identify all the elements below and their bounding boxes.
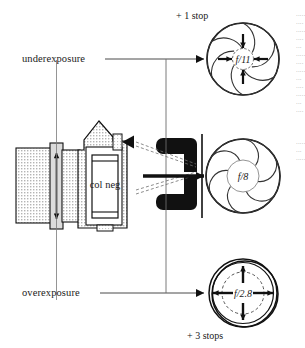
edge-text-line: ····· — [296, 53, 305, 59]
edge-text-line: ······ — [296, 157, 305, 163]
edge-text-line: ····· — [296, 93, 305, 99]
underexposure-label: underexposure — [22, 53, 85, 64]
aperture-f2-8-label: f/2.8 — [234, 288, 252, 299]
edge-text-line: ···· — [296, 61, 304, 67]
lens-nub-body — [113, 134, 122, 150]
plus-three-stops-label: + 3 stops — [187, 330, 223, 341]
diagram-canvas: col neg — [0, 0, 305, 348]
enlarger-exposure-diagram: col neg — [0, 0, 305, 348]
negative-carrier: col neg — [90, 155, 121, 218]
overexposure-label: overexposure — [22, 287, 80, 298]
edge-text-line: ····· — [296, 13, 305, 19]
edge-text-line: ···· — [296, 109, 304, 115]
enlarger-midsection — [62, 150, 80, 222]
edge-text-line: ···· — [296, 21, 304, 27]
edge-text-line: ···· — [296, 85, 304, 91]
edge-text-line: ····· — [296, 69, 305, 75]
edge-text-line: ··· — [296, 77, 302, 83]
edge-text-line: ···· — [296, 37, 304, 43]
plus-icon-vertical — [162, 182, 165, 193]
lens-base-foot — [97, 225, 113, 231]
plus-one-stop-label: + 1 stop — [176, 10, 208, 21]
col-neg-label: col neg — [90, 179, 121, 190]
edge-text-line: ····· — [296, 141, 305, 147]
aperture-f8-label: f/8 — [238, 171, 249, 182]
edge-text-line: ··· — [296, 101, 302, 107]
aperture-f11: f/11 — [207, 23, 279, 95]
aperture-f11-label: f/11 — [236, 54, 251, 65]
aperture-f8: f/8 — [206, 139, 280, 213]
edge-text-line: ··· — [296, 45, 302, 51]
minus-icon — [158, 158, 169, 161]
edge-text-line: ··· — [296, 149, 302, 155]
edge-text-line: ······ — [296, 29, 305, 35]
aperture-f2-8: f/2.8 — [209, 259, 278, 327]
